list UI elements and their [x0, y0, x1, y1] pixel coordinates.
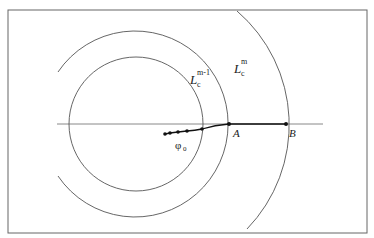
trajectory-path: [165, 124, 286, 134]
label-level-set-m-sup: m: [241, 57, 248, 66]
label-point-B: B: [289, 127, 296, 139]
point-dot: [168, 131, 172, 135]
diagram-frame: [8, 10, 367, 233]
point-dot: [200, 127, 204, 131]
label-point-A: A: [232, 127, 240, 139]
label-level-set-m: L: [233, 61, 241, 76]
point-dot: [163, 132, 167, 136]
label-phi0: φ: [175, 139, 181, 151]
point-dot: [185, 129, 189, 133]
level-set-m-arc: [237, 11, 289, 229]
diagram-canvas: L c m-1 L c m A B φ 0: [0, 0, 374, 238]
point-A-dot: [227, 122, 231, 126]
label-level-set-m-minus-1-sub: c: [197, 80, 201, 89]
label-level-set-m-minus-1-sup: m-1: [197, 68, 210, 77]
label-level-set-m-sub: c: [241, 69, 245, 78]
label-level-set-m-minus-1: L: [189, 72, 197, 87]
point-B-dot: [284, 122, 288, 126]
point-dot: [176, 130, 180, 134]
label-phi0-sub: 0: [183, 145, 187, 153]
